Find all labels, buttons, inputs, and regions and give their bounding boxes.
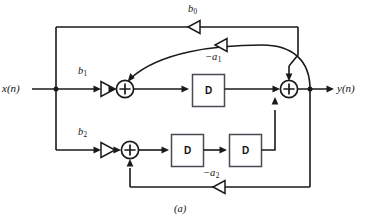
- delay2-to-delay3-wire: [204, 147, 228, 154]
- delay-block-d2-label: D: [184, 145, 191, 156]
- delay-block-d3-label: D: [242, 145, 249, 156]
- gain-b2-label: b2: [78, 127, 87, 138]
- input-signal-label: x(n): [2, 83, 20, 94]
- adder-top-left: [116, 80, 133, 97]
- input-fanout-rail: [32, 27, 101, 153]
- gain-b1-label: b1: [78, 66, 87, 77]
- b0-path-wire: [56, 27, 298, 81]
- adder-to-delay1-wire: [134, 86, 189, 93]
- output-wire: [298, 86, 334, 93]
- gain-a2-label: −a2: [203, 168, 219, 179]
- gain-b2-triangle: [101, 143, 115, 158]
- gain-b0-triangle: [188, 21, 200, 34]
- gain-a2-triangle: [213, 181, 225, 194]
- adder-top-right: [280, 80, 297, 97]
- delay1-to-adder-wire: [225, 86, 281, 93]
- adder-bottom-left: [121, 141, 138, 158]
- delay-block-d1-label: D: [205, 85, 212, 96]
- b1-to-adder-wire: [109, 86, 117, 93]
- b2-to-adder-wire: [114, 147, 122, 154]
- figure-container: x(n) y(n) b0 b1 b2 −a1 −a2 D D D (a): [0, 0, 366, 224]
- adder-to-delay2-wire: [139, 147, 169, 154]
- block-diagram-canvas: [0, 0, 366, 224]
- gain-a1-label: −a1: [205, 52, 221, 63]
- figure-caption: (a): [174, 203, 186, 214]
- delay3-to-adder-wire: [262, 97, 279, 150]
- gain-b0-label: b0: [188, 4, 197, 15]
- gain-a1-triangle: [215, 39, 227, 52]
- output-signal-label: y(n): [337, 83, 355, 94]
- input-junction-dot: [54, 87, 59, 92]
